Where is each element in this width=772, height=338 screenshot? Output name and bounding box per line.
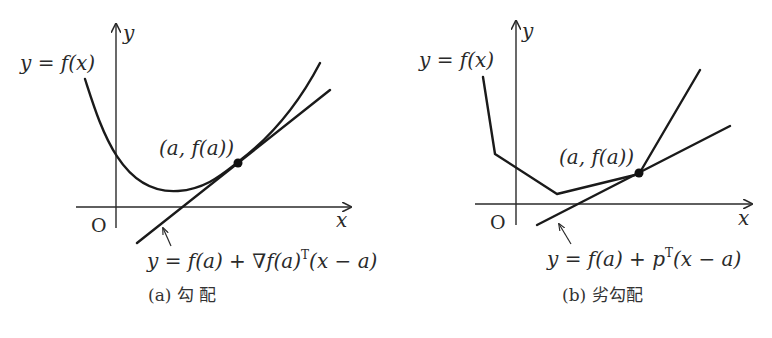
y-axis-label: y <box>122 21 135 45</box>
subgradient-pointer <box>559 224 571 244</box>
kink-point <box>635 169 644 178</box>
caption-a: (a) 勾 配 <box>148 285 216 305</box>
panel-b: y x O y = f(x) (a, f(a)) y = f(a) + pT(x… <box>418 19 752 305</box>
function-label: y = f(x) <box>19 51 95 75</box>
point-label: (a, f(a)) <box>559 145 634 169</box>
y-axis-label: y <box>521 19 534 43</box>
tangent-line <box>137 90 330 243</box>
figure: y x O y = f(x) (a, f(a)) y = f(a) + ∇f(a… <box>0 0 772 338</box>
origin-label: O <box>91 214 107 236</box>
x-axis-label: x <box>336 208 347 232</box>
subgradient-label: y = f(a) + pT(x − a) <box>546 246 741 271</box>
panel-a: y x O y = f(x) (a, f(a)) y = f(a) + ∇f(a… <box>19 21 377 305</box>
tangent-pointer <box>163 228 171 246</box>
origin-label: O <box>490 211 506 233</box>
caption-b: (b) 劣勾配 <box>562 285 643 305</box>
tangent-point <box>234 159 243 168</box>
point-label: (a, f(a)) <box>159 136 234 160</box>
subgradient-line <box>537 126 730 225</box>
function-label: y = f(x) <box>418 48 494 72</box>
tangent-label: y = f(a) + ∇f(a)T(x − a) <box>146 248 377 273</box>
x-axis-label: x <box>738 206 749 230</box>
